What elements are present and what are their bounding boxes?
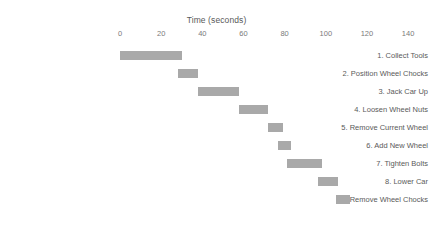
gantt-rows: 1. Collect Tools2. Position Wheel Chocks…: [0, 47, 433, 209]
gantt-row: 3. Jack Car Up: [0, 83, 433, 101]
x-tick-label: 140: [402, 29, 415, 38]
task-bar[interactable]: [336, 195, 350, 204]
gantt-chart: Time (seconds) 020406080100120140 1. Col…: [0, 0, 433, 230]
gantt-row: 6. Add New Wheel: [0, 137, 433, 155]
gantt-row: 1. Collect Tools: [0, 47, 433, 65]
x-tick-label: 0: [118, 29, 122, 38]
gantt-row: 7. Tighten Bolts: [0, 155, 433, 173]
task-bar-track: [0, 155, 433, 173]
gantt-row: 9. Remove Wheel Chocks: [0, 191, 433, 209]
gantt-row: 4. Loosen Wheel Nuts: [0, 101, 433, 119]
x-tick-label: 100: [320, 29, 333, 38]
task-bar-track: [0, 83, 433, 101]
gantt-row: 5. Remove Current Wheel: [0, 119, 433, 137]
gantt-row: 2. Position Wheel Chocks: [0, 65, 433, 83]
task-bar[interactable]: [287, 159, 322, 168]
x-tick-label: 120: [361, 29, 374, 38]
task-bar[interactable]: [278, 141, 290, 150]
x-axis-tick-labels: 020406080100120140: [0, 29, 433, 41]
task-bar[interactable]: [120, 51, 182, 60]
task-bar[interactable]: [198, 87, 239, 96]
task-bar-track: [0, 119, 433, 137]
x-tick-label: 80: [280, 29, 288, 38]
x-tick-label: 20: [157, 29, 165, 38]
task-bar-track: [0, 65, 433, 83]
gantt-row: 8. Lower Car: [0, 173, 433, 191]
x-axis-title: Time (seconds): [0, 15, 433, 25]
task-bar[interactable]: [239, 105, 268, 114]
task-bar[interactable]: [178, 69, 199, 78]
task-bar-track: [0, 101, 433, 119]
task-bar-track: [0, 173, 433, 191]
task-bar-track: [0, 137, 433, 155]
task-bar[interactable]: [268, 123, 282, 132]
x-tick-label: 60: [239, 29, 247, 38]
task-bar[interactable]: [318, 177, 339, 186]
x-tick-label: 40: [198, 29, 206, 38]
task-bar-track: [0, 191, 433, 209]
task-bar-track: [0, 47, 433, 65]
